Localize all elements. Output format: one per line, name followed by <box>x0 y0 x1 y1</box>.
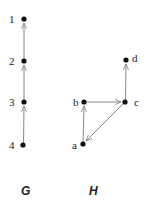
label-b: b <box>73 96 79 108</box>
label-1: 1 <box>9 13 15 25</box>
label-c: c <box>134 96 139 108</box>
caption-g: G <box>21 184 30 198</box>
graph-diagram: 1 2 3 4 G a b c d H <box>0 0 147 201</box>
label-a: a <box>72 139 77 151</box>
node-2 <box>21 58 26 63</box>
label-4: 4 <box>9 139 15 151</box>
label-2: 2 <box>9 55 15 67</box>
node-4 <box>20 142 25 147</box>
caption-h: H <box>89 184 98 198</box>
label-d: d <box>132 52 138 64</box>
label-3: 3 <box>9 96 15 108</box>
edge-c-d <box>126 64 127 102</box>
node-a <box>80 141 85 146</box>
graph-h: a b c d H <box>72 52 139 198</box>
edge-4-3 <box>24 106 25 145</box>
node-c <box>122 99 127 104</box>
graph-g: 1 2 3 4 G <box>9 13 30 198</box>
edge-c-a <box>86 102 125 141</box>
edge-a-b <box>83 106 84 144</box>
node-d <box>123 57 128 62</box>
node-3 <box>21 99 26 104</box>
node-b <box>81 99 86 104</box>
node-1 <box>21 16 26 21</box>
